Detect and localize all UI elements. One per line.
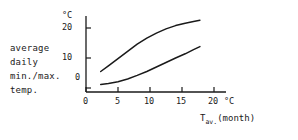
x-axis-title-tail: (month) — [217, 113, 255, 123]
y-axis-caption-line-3: min./max. — [10, 71, 61, 81]
x-axis-tick-label-20: 20 — [208, 96, 218, 106]
chart-figure: average daily min./max. temp. °C 20 10 0… — [0, 0, 298, 140]
y-axis-unit-label: °C — [62, 10, 72, 20]
y-axis-caption-line-4: temp. — [10, 85, 38, 95]
x-axis-tick-label-10: 10 — [144, 96, 154, 106]
y-axis-tick-label-0: 0 — [75, 72, 80, 82]
y-axis-tick-label-20: 20 — [62, 22, 72, 32]
y-axis-caption-line-1: average — [10, 43, 49, 53]
x-axis-tick-label-15: 15 — [176, 96, 186, 106]
x-axis-title: Tav.(month) — [200, 113, 255, 127]
curve-min-temp — [101, 47, 200, 85]
x-axis-unit-label: °C — [224, 96, 234, 106]
x-axis-title-subscript: av. — [205, 118, 217, 126]
y-axis-tick-label-10: 10 — [62, 52, 72, 62]
x-axis-tick-label-0: 0 — [83, 96, 88, 106]
x-axis-tick-label-5: 5 — [115, 96, 120, 106]
curve-max-temp — [101, 20, 200, 71]
y-axis-caption-line-2: daily — [10, 57, 38, 67]
